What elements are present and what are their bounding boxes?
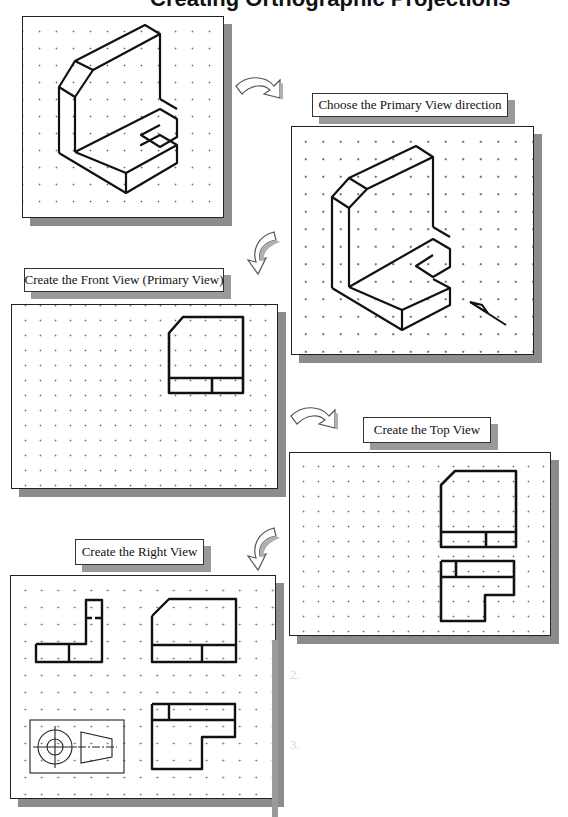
top-view-panel [289, 452, 551, 636]
ghost-item-3-number: 3. [290, 736, 300, 753]
flow-arrow-1 [230, 68, 290, 108]
step-label-right-view: Create the Right View [75, 539, 204, 565]
three-view-drawing [11, 576, 275, 798]
isometric-with-direction-arrow [292, 127, 533, 354]
step-label-top-view: Create the Top View [363, 417, 491, 443]
flow-arrow-3 [285, 398, 345, 438]
front-view-drawing [12, 305, 277, 488]
isometric-drawing [23, 17, 223, 217]
projection-symbol [30, 720, 124, 773]
isometric-panel [22, 16, 224, 218]
ghost-item-2-number: 2. [290, 666, 300, 683]
primary-direction-panel [291, 126, 534, 355]
flow-arrow-2 [238, 228, 288, 278]
step-label-primary-direction: Choose the Primary View direction [312, 93, 508, 117]
page-bleed-bar [272, 640, 278, 817]
top-view-drawing [290, 453, 550, 635]
flow-arrow-4 [238, 524, 288, 574]
page-title: Creating Orthographic Projections [150, 0, 568, 12]
step-label-front-view: Create the Front View (Primary View) [24, 268, 224, 292]
right-view-panel [10, 575, 276, 799]
front-view-panel [11, 304, 278, 489]
